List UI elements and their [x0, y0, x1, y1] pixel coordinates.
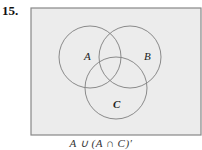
universal-set-rectangle	[31, 8, 201, 135]
set-b-label: B	[144, 50, 151, 62]
set-a-label: A	[83, 50, 91, 62]
venn-diagram: ABC	[0, 0, 202, 150]
set-expression-caption: A ∪ (A ∩ C)′	[0, 137, 202, 150]
set-c-label: C	[113, 98, 121, 110]
